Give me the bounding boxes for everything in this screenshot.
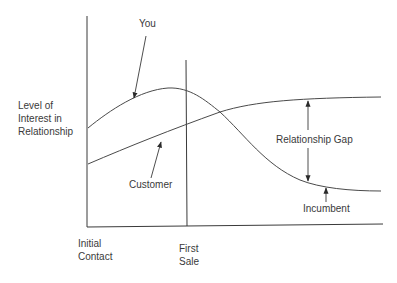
y-axis-label-line-3: Relationship (18, 126, 73, 137)
first-sale-marker-line (186, 60, 187, 226)
x-label-initial-line-1: Initial (78, 238, 101, 249)
y-axis-label-line-1: Level of (18, 100, 53, 111)
customer-label: Customer (129, 179, 173, 190)
incumbent-label: Incumbent (303, 203, 350, 214)
x-label-first-sale-line-2: Sale (179, 256, 199, 267)
relationship-gap-diagram: You Customer Relationship Gap Incumbent … (0, 0, 397, 283)
customer-curve (88, 97, 381, 164)
x-axis (87, 224, 383, 227)
y-axis-label-line-2: Interest in (18, 113, 62, 124)
customer-pointer-arrow (151, 142, 161, 178)
x-label-initial-line-2: Contact (78, 251, 113, 262)
you-label: You (139, 18, 156, 29)
relationship-gap-label: Relationship Gap (276, 134, 353, 145)
x-label-first-sale-line-1: First (179, 243, 199, 254)
you-pointer-arrow (134, 36, 146, 98)
